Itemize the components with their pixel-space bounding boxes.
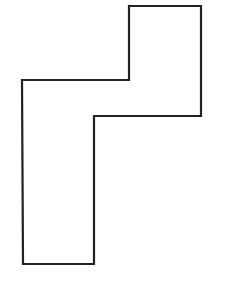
diagram-svg: [0, 0, 238, 287]
diagram-canvas: [0, 0, 238, 287]
stepped-polygon-shape: [22, 6, 201, 264]
